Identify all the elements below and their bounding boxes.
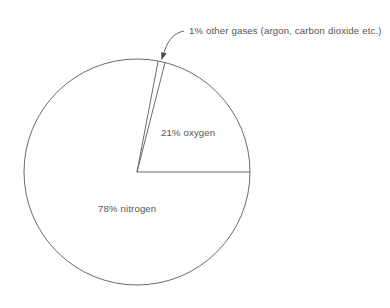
wedge-divider-oxygen-other <box>137 62 165 172</box>
pie-chart-figure: 21% oxygen 78% nitrogen 1% other gases (… <box>0 0 390 308</box>
callout-leader-line <box>164 31 184 52</box>
oxygen-slice-label: 21% oxygen <box>161 127 215 138</box>
wedge-divider-other-nitrogen <box>137 61 158 172</box>
nitrogen-slice-label: 78% nitrogen <box>98 203 156 214</box>
other-gases-callout-label: 1% other gases (argon, carbon dioxide et… <box>189 25 382 36</box>
callout-arrow-icon <box>161 52 166 60</box>
atmosphere-composition-pie-chart: 21% oxygen 78% nitrogen 1% other gases (… <box>0 0 390 308</box>
